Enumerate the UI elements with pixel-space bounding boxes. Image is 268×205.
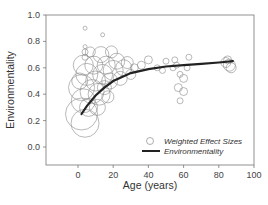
y-axis: 0.00.20.40.60.81.0 xyxy=(27,10,46,152)
legend-label-weighted-effect-sizes: Weighted Effect Sizes xyxy=(164,137,242,146)
y-tick-label: 1.0 xyxy=(27,10,40,20)
x-tick-label: 100 xyxy=(246,170,261,180)
x-tick-label: 20 xyxy=(108,170,118,180)
x-tick-label: 60 xyxy=(179,170,189,180)
x-axis: 020406080100 xyxy=(75,165,261,180)
y-tick-label: 0.6 xyxy=(27,63,40,73)
x-axis-label: Age (years) xyxy=(123,179,177,191)
y-tick-label: 0.4 xyxy=(27,89,40,99)
scatter-chart: 0.00.20.40.60.81.0 020406080100 Age (yea… xyxy=(0,0,268,205)
y-tick-label: 0.0 xyxy=(27,142,40,152)
y-tick-label: 0.2 xyxy=(27,116,40,126)
x-tick-label: 80 xyxy=(214,170,224,180)
y-axis-label: Environmentality xyxy=(4,50,16,128)
legend-label-environmentality: Environmentality xyxy=(164,147,224,156)
x-tick-label: 0 xyxy=(75,170,80,180)
y-tick-label: 0.8 xyxy=(27,36,40,46)
